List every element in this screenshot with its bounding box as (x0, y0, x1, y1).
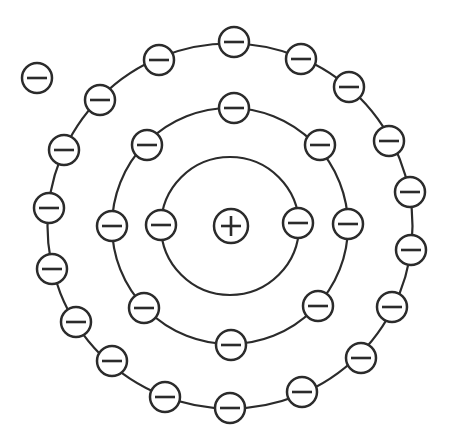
bohr-model-svg (0, 0, 449, 436)
atom-diagram (0, 0, 449, 436)
